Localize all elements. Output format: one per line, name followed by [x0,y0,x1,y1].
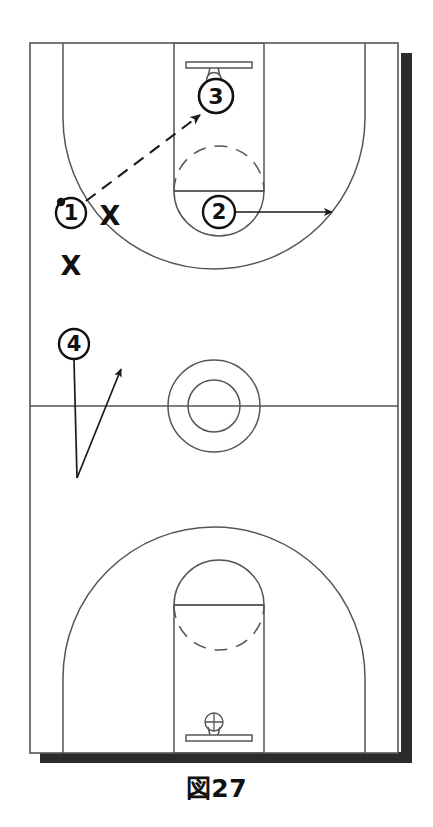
player-marker-2[interactable]: 2 [203,196,235,228]
player-marker-1[interactable]: 1 [56,198,86,228]
player-4-label: 4 [67,332,82,356]
ball-indicator-icon [57,198,65,206]
court-boundary [30,43,398,753]
player-2-label: 2 [212,200,227,224]
court-svg: 3 2 1 4 X X [0,0,433,827]
backboard-top [186,62,252,68]
player-1-label: 1 [64,201,79,225]
figure-caption: 図27 [0,768,433,804]
player-marker-3[interactable]: 3 [199,79,233,113]
player-3-label: 3 [208,84,223,109]
defender-x2[interactable]: X [61,250,82,281]
basketball-play-diagram: 3 2 1 4 X X 図27 [0,0,433,827]
backboard-bottom [186,735,252,741]
defender-x1[interactable]: X [100,200,121,231]
player-marker-4[interactable]: 4 [59,329,89,359]
